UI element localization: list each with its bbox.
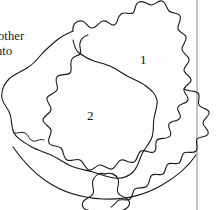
bottom-center-lobe-left xyxy=(82,173,105,210)
bottom-arc-path xyxy=(13,147,196,199)
body-text-line-2: nto xyxy=(0,45,12,58)
region-2-lower-detail xyxy=(14,132,44,141)
region-1-lower-tail xyxy=(111,89,209,207)
region-2-label: 2 xyxy=(87,108,94,124)
region-2-contour xyxy=(2,31,157,178)
region-1-contour xyxy=(43,1,191,170)
region-1-label: 1 xyxy=(140,52,147,68)
diagram-svg xyxy=(0,0,223,210)
figure-canvas: other nto 1 2 xyxy=(0,0,223,210)
body-text-line-1: other xyxy=(0,30,24,43)
